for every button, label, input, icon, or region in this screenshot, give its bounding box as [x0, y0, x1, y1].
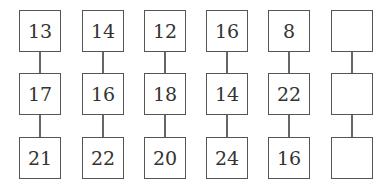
empty-answer-box-r3-c6[interactable]	[331, 137, 373, 179]
empty-answer-box-r1-c6[interactable]	[331, 10, 373, 52]
number-box-r1-c3: 12	[144, 10, 186, 52]
number-box-r3-c2: 22	[82, 137, 124, 179]
number-box-r1-c4: 16	[206, 10, 248, 52]
number-box-r3-c4: 24	[206, 137, 248, 179]
connector-line	[164, 115, 165, 137]
number-box-r2-c2: 16	[82, 73, 124, 115]
connector-line	[288, 115, 289, 137]
number-box-r2-c1: 17	[19, 73, 61, 115]
number-box-r1-c1: 13	[19, 10, 61, 52]
number-box-r2-c5: 22	[268, 73, 310, 115]
connector-line	[164, 52, 165, 73]
number-box-r1-c5: 8	[268, 10, 310, 52]
number-box-r3-c3: 20	[144, 137, 186, 179]
connector-line	[102, 52, 103, 73]
connector-line	[351, 115, 352, 137]
connector-line	[39, 52, 40, 73]
empty-answer-box-r2-c6[interactable]	[331, 73, 373, 115]
connector-line	[351, 52, 352, 73]
connector-line	[226, 52, 227, 73]
number-box-r3-c5: 16	[268, 137, 310, 179]
connector-line	[39, 115, 40, 137]
number-box-r3-c1: 21	[19, 137, 61, 179]
connector-line	[288, 52, 289, 73]
number-box-r1-c2: 14	[82, 10, 124, 52]
connector-line	[226, 115, 227, 137]
connector-line	[102, 115, 103, 137]
number-box-r2-c4: 14	[206, 73, 248, 115]
number-box-r2-c3: 18	[144, 73, 186, 115]
